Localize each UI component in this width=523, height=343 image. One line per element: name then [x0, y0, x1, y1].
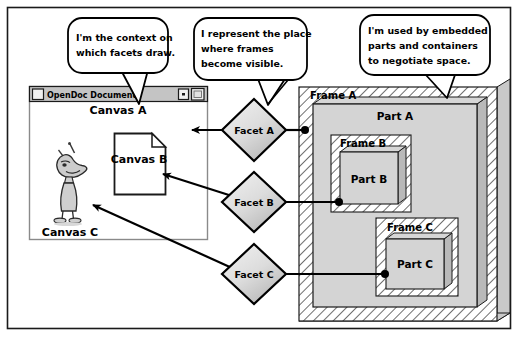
callout-frame-line-3: to negotiate space. — [368, 55, 471, 66]
collapse-box-inner-icon — [182, 93, 185, 96]
frame-b-label: Frame B — [340, 138, 386, 149]
connector-dot-part-b — [335, 198, 343, 206]
facet-b-label: Facet B — [234, 197, 274, 208]
connector-dot-part-c — [381, 270, 389, 278]
callout-facet-line-1: I represent the place — [201, 28, 312, 39]
canvas-a-label: Canvas A — [90, 104, 147, 117]
frame-a-label: Frame A — [310, 90, 357, 101]
canvas-b-label: Canvas B — [111, 153, 168, 166]
facet-a-label: Facet A — [234, 125, 274, 136]
frame-a-3d-side — [497, 79, 510, 321]
callout-frame-line-2: parts and containers — [368, 40, 478, 51]
diagram-canvas: Frame A Part A Frame B Part B Frame C Pa… — [0, 0, 523, 343]
connector-dot-part-a — [301, 126, 309, 134]
part-c-label: Part C — [397, 258, 433, 270]
facet-c-label: Facet C — [234, 269, 273, 280]
part-b-3d-side — [398, 146, 406, 204]
part-a-3d-side — [477, 97, 487, 307]
part-b-label: Part B — [351, 173, 387, 185]
zoom-box-inner-icon — [194, 91, 202, 98]
callout-canvas-line-1: I'm the context on — [76, 32, 173, 43]
part-c-3d-side — [444, 233, 452, 289]
close-box-icon[interactable] — [33, 89, 44, 100]
callout-canvas-bubble — [68, 18, 168, 73]
part-a-label: Part A — [377, 110, 414, 122]
frame-c-label: Frame C — [387, 222, 433, 233]
callout-facet-line-2: where frames — [201, 43, 274, 54]
callout-facet-line-3: become visible. — [201, 58, 283, 69]
callout-canvas-line-2: which facets draw. — [76, 47, 175, 58]
canvas-c-label: Canvas C — [42, 226, 98, 239]
window-title: OpenDoc Document — [47, 91, 136, 100]
part-c-3d-top — [386, 233, 452, 239]
callout-frame-line-1: I'm used by embedded — [368, 25, 488, 36]
